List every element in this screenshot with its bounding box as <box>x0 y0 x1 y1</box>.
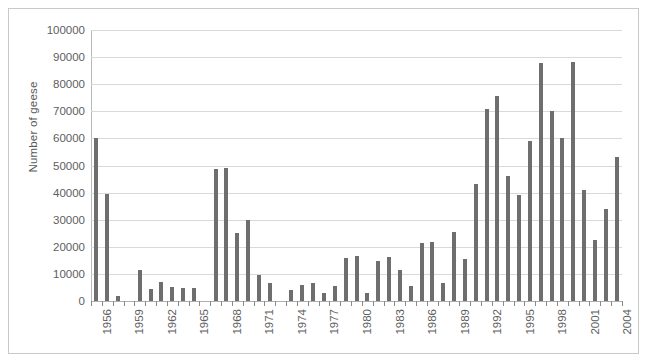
bar <box>560 138 564 301</box>
bar <box>463 259 467 301</box>
bar <box>94 138 98 301</box>
gridline <box>91 57 622 58</box>
x-tick <box>124 301 125 306</box>
bar <box>268 283 272 301</box>
bar <box>474 184 478 301</box>
x-tick <box>362 301 363 306</box>
x-tick <box>557 301 558 306</box>
x-tick <box>481 301 482 306</box>
bar <box>322 293 326 301</box>
x-tick <box>438 301 439 306</box>
y-tick-label: 20000 <box>29 241 85 253</box>
x-tick <box>264 301 265 306</box>
bar <box>387 257 391 301</box>
x-tick <box>156 301 157 306</box>
x-tick <box>210 301 211 306</box>
gridline <box>91 30 622 31</box>
bar <box>452 232 456 301</box>
x-tick <box>459 301 460 306</box>
bar <box>344 258 348 301</box>
bar <box>170 287 174 301</box>
bar <box>539 63 543 301</box>
bar <box>365 293 369 301</box>
chart-screenshot: Number of geese 010000200003000040000500… <box>0 0 649 364</box>
x-tick <box>546 301 547 306</box>
x-tick-label: 1995 <box>524 309 536 335</box>
x-tick <box>373 301 374 306</box>
x-tick <box>232 301 233 306</box>
bar <box>409 286 413 301</box>
bar <box>246 220 250 301</box>
bar <box>300 285 304 301</box>
x-tick-label: 1971 <box>263 309 275 335</box>
bar <box>582 190 586 301</box>
y-axis-tick-labels: 0100002000030000400005000060000700008000… <box>23 30 85 301</box>
bar <box>214 169 218 301</box>
x-tick <box>449 301 450 306</box>
x-tick <box>199 301 200 306</box>
bar <box>485 109 489 301</box>
x-tick <box>427 301 428 306</box>
bar <box>235 233 239 301</box>
bar <box>333 286 337 301</box>
bar <box>138 270 142 301</box>
x-tick-label: 1980 <box>361 309 373 335</box>
y-tick-label: 30000 <box>29 214 85 226</box>
x-tick-label: 1974 <box>296 309 308 335</box>
x-tick <box>589 301 590 306</box>
x-tick <box>535 301 536 306</box>
y-tick-label: 0 <box>29 295 85 307</box>
y-tick-label: 70000 <box>29 105 85 117</box>
bar <box>376 261 380 301</box>
y-tick-label: 80000 <box>29 78 85 90</box>
x-tick <box>611 301 612 306</box>
bar <box>430 242 434 301</box>
x-tick-label: 2004 <box>621 309 633 335</box>
x-tick <box>189 301 190 306</box>
x-tick <box>91 301 92 306</box>
x-tick <box>394 301 395 306</box>
x-tick <box>102 301 103 306</box>
y-tick-label: 100000 <box>29 24 85 36</box>
bar <box>355 256 359 301</box>
x-tick <box>340 301 341 306</box>
x-tick <box>254 301 255 306</box>
bar <box>528 141 532 301</box>
y-tick-label: 40000 <box>29 187 85 199</box>
x-tick <box>329 301 330 306</box>
x-tick-label: 1956 <box>101 309 113 335</box>
bar <box>149 289 153 301</box>
bar <box>192 288 196 301</box>
x-tick-label: 1962 <box>166 309 178 335</box>
bar <box>571 62 575 301</box>
bar <box>604 209 608 301</box>
x-tick <box>514 301 515 306</box>
x-tick <box>568 301 569 306</box>
chart-frame: Number of geese 010000200003000040000500… <box>8 8 639 354</box>
bar <box>420 243 424 301</box>
x-tick <box>113 301 114 306</box>
x-tick <box>524 301 525 306</box>
x-tick-label: 1998 <box>556 309 568 335</box>
x-tick-label: 1986 <box>426 309 438 335</box>
x-tick <box>286 301 287 306</box>
x-tick-label: 1992 <box>491 309 503 335</box>
x-tick <box>167 301 168 306</box>
x-tick-label: 1977 <box>328 309 340 335</box>
x-tick <box>600 301 601 306</box>
x-tick-label: 1983 <box>394 309 406 335</box>
x-tick <box>297 301 298 306</box>
x-tick-label: 1989 <box>459 309 471 335</box>
x-tick <box>470 301 471 306</box>
x-tick <box>178 301 179 306</box>
bar <box>550 111 554 301</box>
y-tick-label: 50000 <box>29 160 85 172</box>
bar <box>615 157 619 301</box>
x-tick <box>319 301 320 306</box>
y-tick-label: 60000 <box>29 132 85 144</box>
bar <box>506 176 510 301</box>
x-tick-label: 1965 <box>198 309 210 335</box>
x-tick <box>503 301 504 306</box>
x-tick <box>492 301 493 306</box>
x-tick <box>405 301 406 306</box>
